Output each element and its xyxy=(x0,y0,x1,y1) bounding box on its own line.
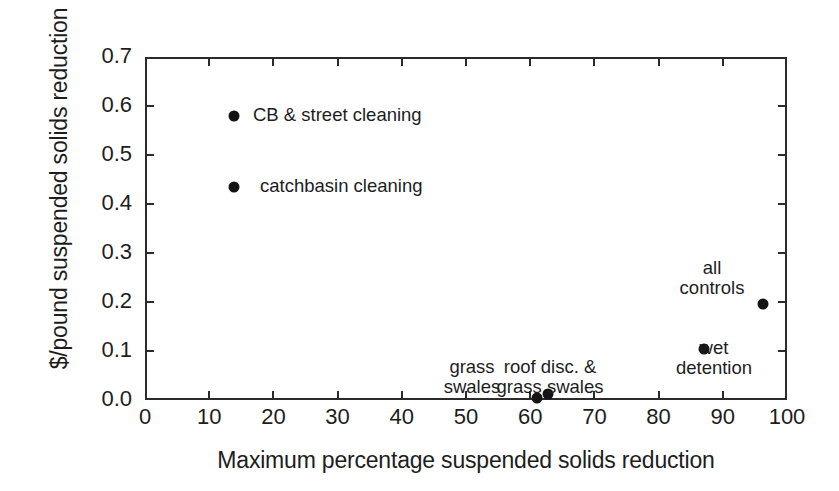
annotation-wet-detention: wet detention xyxy=(634,338,794,378)
x-tick-label-10: 10 xyxy=(174,404,244,430)
x-tick-label-40: 40 xyxy=(367,404,437,430)
y-tick-left-0.3 xyxy=(145,252,154,254)
x-tick-top-20 xyxy=(272,57,274,66)
y-tick-right-0.3 xyxy=(778,252,787,254)
y-tick-left-0.2 xyxy=(145,301,154,303)
annotation-catchbasin-cleaning: catchbasin cleaning xyxy=(260,176,423,196)
y-tick-label-0.4: 0.4 xyxy=(62,190,132,216)
annotation-cb-street-cleaning: CB & street cleaning xyxy=(253,105,422,125)
y-tick-left-0.1 xyxy=(145,350,154,352)
x-tick-top-70 xyxy=(593,57,595,66)
x-tick-top-50 xyxy=(465,57,467,66)
x-axis-label: Maximum percentage suspended solids redu… xyxy=(145,447,787,474)
x-tick-label-70: 70 xyxy=(559,404,629,430)
x-tick-bottom-30 xyxy=(337,391,339,400)
x-tick-top-80 xyxy=(658,57,660,66)
y-tick-right-0.2 xyxy=(778,301,787,303)
x-tick-label-50: 50 xyxy=(431,404,501,430)
y-tick-label-0.3: 0.3 xyxy=(62,239,132,265)
x-tick-label-80: 80 xyxy=(624,404,694,430)
y-tick-label-0.1: 0.1 xyxy=(62,337,132,363)
y-tick-right-0.6 xyxy=(778,105,787,107)
annotation-roof-disc-grass-swales: roof disc. & grass swales xyxy=(470,357,630,397)
data-point-1 xyxy=(228,181,239,192)
x-tick-top-10 xyxy=(208,57,210,66)
x-tick-label-20: 20 xyxy=(238,404,308,430)
y-tick-label-0.6: 0.6 xyxy=(62,92,132,118)
y-tick-label-0.2: 0.2 xyxy=(62,288,132,314)
x-tick-top-60 xyxy=(529,57,531,66)
x-tick-top-40 xyxy=(401,57,403,66)
x-tick-top-30 xyxy=(337,57,339,66)
annotation-all-controls: all controls xyxy=(632,258,792,298)
y-tick-label-0.5: 0.5 xyxy=(62,141,132,167)
y-tick-right-0.5 xyxy=(778,154,787,156)
data-point-0 xyxy=(228,110,239,121)
y-tick-label-0.7: 0.7 xyxy=(62,43,132,69)
y-tick-left-0.5 xyxy=(145,154,154,156)
x-tick-label-30: 30 xyxy=(303,404,373,430)
x-tick-bottom-80 xyxy=(658,391,660,400)
x-tick-bottom-20 xyxy=(272,391,274,400)
x-tick-bottom-90 xyxy=(722,391,724,400)
scatter-chart-figure: $/pound suspended solids reduction Maxim… xyxy=(0,0,839,491)
x-tick-bottom-10 xyxy=(208,391,210,400)
x-tick-label-90: 90 xyxy=(688,404,758,430)
x-tick-label-100: 100 xyxy=(752,404,822,430)
x-tick-top-90 xyxy=(722,57,724,66)
data-point-5 xyxy=(758,298,769,309)
y-tick-label-0.0: 0.0 xyxy=(62,386,132,412)
x-tick-label-60: 60 xyxy=(495,404,565,430)
y-tick-left-0.6 xyxy=(145,105,154,107)
y-tick-left-0.4 xyxy=(145,203,154,205)
y-tick-right-0.4 xyxy=(778,203,787,205)
